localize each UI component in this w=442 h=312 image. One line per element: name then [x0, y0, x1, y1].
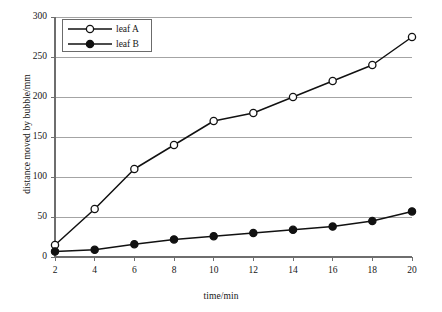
tick-marks [51, 17, 412, 261]
x-tick-label: 12 [241, 265, 265, 275]
x-tick-label: 16 [321, 265, 345, 275]
y-tick-label: 0 [15, 251, 47, 261]
legend-label-leaf-b: leaf B [116, 39, 139, 49]
line-chart: distance moved by bubble/mm time/min 050… [0, 0, 442, 312]
x-tick-label: 2 [43, 265, 67, 275]
y-tick-label: 300 [15, 11, 47, 21]
x-tick-label: 4 [83, 265, 107, 275]
y-tick-label: 150 [15, 131, 47, 141]
legend-marker-filled-circle-icon [67, 37, 113, 51]
gridlines [55, 17, 412, 257]
series-layer [51, 33, 415, 255]
x-tick-label: 14 [281, 265, 305, 275]
legend-item-leaf-a: leaf A [63, 21, 153, 37]
legend-marker-open-circle-icon [67, 22, 113, 36]
x-tick-label: 20 [400, 265, 424, 275]
legend-item-leaf-b: leaf B [63, 36, 153, 52]
y-tick-label: 100 [15, 171, 47, 181]
legend-label-leaf-a: leaf A [116, 24, 139, 34]
x-tick-label: 8 [162, 265, 186, 275]
y-tick-label: 50 [15, 211, 47, 221]
legend: leaf A leaf B [62, 19, 152, 52]
x-tick-label: 18 [360, 265, 384, 275]
x-tick-label: 10 [202, 265, 226, 275]
y-tick-label: 250 [15, 51, 47, 61]
x-tick-label: 6 [122, 265, 146, 275]
y-tick-label: 200 [15, 91, 47, 101]
